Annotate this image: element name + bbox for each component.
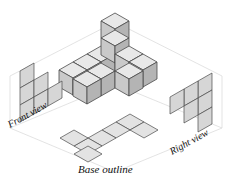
right-view-projection xyxy=(170,73,212,132)
right-cell xyxy=(170,89,184,114)
right-view-label: Right view xyxy=(167,126,211,157)
cube-stack-figure: Front view Right view Base outline xyxy=(0,0,230,179)
figure-canvas: Front view Right view Base outline xyxy=(0,0,230,179)
base-outline-label: Base outline xyxy=(78,163,133,175)
cube-stack xyxy=(59,13,157,104)
front-cell xyxy=(48,81,62,106)
base-outline-projection xyxy=(60,114,158,162)
